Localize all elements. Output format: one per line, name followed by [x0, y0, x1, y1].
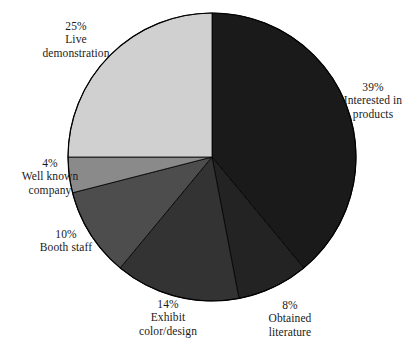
- pie-label-exhibit-color-design: 14% Exhibit color/design: [116, 298, 220, 338]
- pie-label-percent: 8%: [248, 299, 332, 312]
- pie-label-name-line2: company: [2, 184, 98, 197]
- pie-label-percent: 10%: [18, 228, 114, 241]
- pie-label-name-line1: Well known: [2, 170, 98, 183]
- pie-label-interested-in-products: 39% Interested in products: [330, 81, 416, 121]
- pie-label-name-line2: literature: [248, 326, 332, 339]
- pie-label-percent: 4%: [2, 157, 98, 170]
- pie-label-percent: 25%: [14, 20, 138, 33]
- pie-label-obtained-literature: 8% Obtained literature: [248, 299, 332, 339]
- pie-label-well-known-company: 4% Well known company: [2, 157, 98, 197]
- pie-label-live-demonstration: 25% Live demonstration: [14, 20, 138, 60]
- pie-label-percent: 39%: [330, 81, 416, 94]
- pie-label-name-line1: Booth staff: [18, 241, 114, 254]
- pie-label-name-line2: products: [330, 108, 416, 121]
- pie-label-name-line1: Interested in: [330, 94, 416, 107]
- pie-label-name-line2: color/design: [116, 325, 220, 338]
- pie-chart: 25% Live demonstration 39% Interested in…: [0, 0, 417, 346]
- pie-label-percent: 14%: [116, 298, 220, 311]
- pie-label-name-line1: Exhibit: [116, 311, 220, 324]
- pie-label-name-line2: demonstration: [14, 47, 138, 60]
- pie-label-name-line1: Live: [14, 33, 138, 46]
- pie-label-name-line1: Obtained: [248, 312, 332, 325]
- pie-label-booth-staff: 10% Booth staff: [18, 228, 114, 255]
